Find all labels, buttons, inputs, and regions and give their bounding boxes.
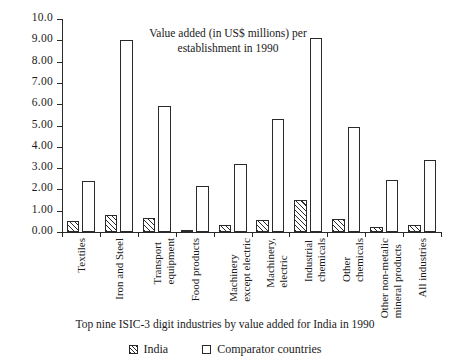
bar-comparator <box>424 160 437 232</box>
legend-item: Comparator countries <box>202 342 321 357</box>
bar-india <box>408 225 421 232</box>
y-axis-tick: 6.00 <box>0 104 62 105</box>
y-axis-tick: 2.00 <box>0 189 62 190</box>
y-axis-tick: 4.00 <box>0 147 62 148</box>
x-axis-category-label: Machinery,electric <box>264 238 289 288</box>
hatched-square-icon <box>129 345 138 354</box>
x-axis-category-label: Food products <box>189 238 202 301</box>
x-axis-tick-mark <box>327 232 328 237</box>
category-label-line-1: Food products <box>189 238 201 301</box>
x-axis-tick-mark <box>100 232 101 237</box>
chart-legend: IndiaComparator countries <box>0 342 450 357</box>
y-axis-tick-label: 5.00 <box>32 118 53 130</box>
category-label-line-2: except electric <box>239 238 252 302</box>
y-axis-tick-label: 1.00 <box>32 203 53 215</box>
bar-india <box>143 218 156 232</box>
bar-comparator <box>272 119 285 232</box>
x-axis-category-label: Textiles <box>75 238 88 273</box>
legend-item-label: India <box>144 342 169 357</box>
x-axis-tick-mark <box>138 232 139 237</box>
x-axis-category-label: Transportequipment <box>151 238 176 284</box>
category-label-line-1: Machinery <box>227 254 239 302</box>
category-label-line-2: equipment <box>163 238 176 284</box>
bar-comparator <box>386 180 399 232</box>
bar-india <box>105 215 118 232</box>
y-axis-tick-label: 8.00 <box>32 54 53 66</box>
y-axis-tick: 8.00 <box>0 62 62 63</box>
x-axis-tick-mark <box>176 232 177 237</box>
y-axis-tick: 1.00 <box>0 211 62 212</box>
bar-india <box>181 230 194 232</box>
category-label-line-1: Textiles <box>75 238 87 273</box>
x-axis-category-label: Other non-metalicmineral products <box>378 238 403 318</box>
x-axis-category-label: All industries <box>416 238 429 298</box>
category-label-line-1: Iron and Steel <box>113 238 125 300</box>
y-axis-tick-label: 10.0 <box>32 11 53 23</box>
y-axis-tick: 5.00 <box>0 126 62 127</box>
x-axis-tick-mark <box>441 232 442 237</box>
bar-comparator <box>158 106 171 232</box>
x-axis-tick-mark <box>403 232 404 237</box>
category-label-line-1: Other <box>340 257 352 282</box>
y-axis-tick-label: 3.00 <box>32 160 53 172</box>
category-label-line-1: Industrial <box>302 240 314 282</box>
x-axis-tick-mark <box>62 232 63 237</box>
y-axis-tick-label: 4.00 <box>32 139 53 151</box>
x-axis-tick-mark <box>289 232 290 237</box>
y-axis-tick-label: 6.00 <box>32 96 53 108</box>
y-axis-tick: 10.0 <box>0 19 62 20</box>
bar-india <box>256 220 269 232</box>
bar-india <box>294 200 307 232</box>
bar-chart-figure: 10.09.008.007.006.005.004.003.002.001.00… <box>0 0 450 362</box>
x-axis-tick-mark <box>214 232 215 237</box>
x-axis-category-label: Industrialchemicals <box>302 238 327 282</box>
x-axis-category-label: Iron and Steel <box>113 238 126 300</box>
legend-item: India <box>129 342 169 357</box>
chart-title-line-2: establishment in 1990 <box>128 41 328 56</box>
category-label-line-1: Transport <box>151 242 163 284</box>
chart-caption: Top nine ISIC-3 digit industries by valu… <box>0 318 450 330</box>
y-axis-tick: 0.00 <box>0 232 62 233</box>
y-axis-tick-label: 7.00 <box>32 75 53 87</box>
x-axis-tick-mark <box>365 232 366 237</box>
y-axis-tick-label: 9.00 <box>32 32 53 44</box>
bar-india <box>370 227 383 232</box>
y-axis-tick: 9.00 <box>0 40 62 41</box>
y-axis-tick-label: 2.00 <box>32 181 53 193</box>
x-axis-category-label: Otherchemicals <box>340 238 365 282</box>
y-axis-tick-label: 0.00 <box>32 224 53 236</box>
bar-comparator <box>120 40 133 232</box>
category-label-line-2: chemicals <box>353 238 366 282</box>
bar-comparator <box>348 127 361 232</box>
bar-india <box>332 219 345 232</box>
y-axis-tick: 7.00 <box>0 83 62 84</box>
bar-comparator <box>82 181 95 232</box>
bar-comparator <box>310 38 323 232</box>
bar-comparator <box>234 164 247 232</box>
legend-item-label: Comparator countries <box>217 342 321 357</box>
category-label-line-2: chemicals <box>315 238 328 282</box>
bar-comparator <box>196 186 209 232</box>
chart-title-line-1: Value added (in US$ millions) per <box>128 26 328 41</box>
category-label-line-2: electric <box>277 238 290 288</box>
y-axis-tick: 3.00 <box>0 168 62 169</box>
category-label-line-2: mineral products <box>391 238 404 318</box>
x-axis-category-label: Machineryexcept electric <box>227 238 252 302</box>
chart-title: Value added (in US$ millions) per establ… <box>128 26 328 56</box>
x-axis-category-labels: TextilesIron and SteelTransportequipment… <box>62 238 442 310</box>
bar-india <box>67 221 80 232</box>
x-axis-tick-mark <box>252 232 253 237</box>
open-square-icon <box>202 345 211 354</box>
bar-india <box>219 225 232 232</box>
category-label-line-1: All industries <box>416 238 428 298</box>
category-label-line-1: Other non-metalic <box>378 238 390 318</box>
category-label-line-1: Machinery, <box>264 238 276 288</box>
